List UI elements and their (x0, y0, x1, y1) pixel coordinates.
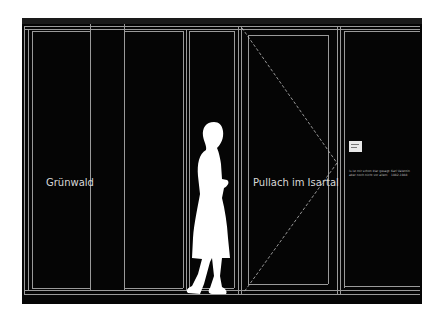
elevation-frame: Grünwald Pullach im Isartal Is ist mir s… (22, 18, 422, 304)
woman-silhouette-icon (22, 18, 422, 304)
